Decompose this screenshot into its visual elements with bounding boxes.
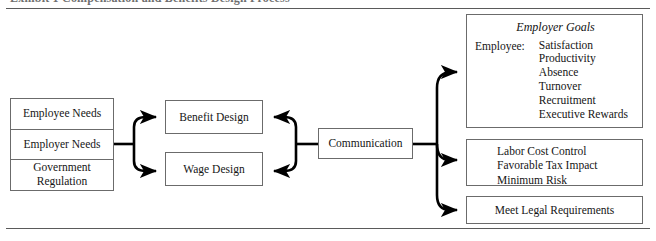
employer-goals-group-label: Employee: [475,39,539,53]
input-employer-needs: Employer Needs [11,130,113,161]
cost-goal-item: Labor Cost Control [497,144,586,158]
input-government-regulation: Government Regulation [11,160,113,190]
figure-top-rule [6,8,650,9]
connector-communication-to-outcomes [413,72,457,210]
figure-bottom-rule [6,228,650,229]
figure-container: Exhibit 1 Compensation and Benefits Desi… [0,0,656,241]
box-communication: Communication [318,128,413,159]
box-benefit-design: Benefit Design [165,100,263,134]
inputs-stack: Employee Needs Employer Needs Government… [10,98,114,191]
goal-item: Productivity [539,52,596,66]
goal-item: Absence [539,66,579,80]
figure-caption-ghost: Exhibit 1 Compensation and Benefits Desi… [10,0,290,6]
box-legal-requirements: Meet Legal Requirements [466,196,643,224]
box-employer-goals: Employer Goals Employee: Satisfaction Pr… [466,14,643,128]
employer-goals-list: Satisfaction Productivity Absence Turnov… [539,39,628,122]
box-wage-design: Wage Design [165,152,263,186]
goal-item: Turnover [539,80,581,94]
goal-item: Satisfaction [539,39,593,53]
connector-inputs-to-design [114,117,156,171]
employer-goals-title: Employer Goals [475,20,636,35]
cost-goal-item: Minimum Risk [497,173,567,187]
employer-goals-row: Employee: Satisfaction Productivity Abse… [475,39,636,122]
connector-communication-to-design [274,117,318,171]
box-cost-goals: Labor Cost Control Favorable Tax Impact … [466,139,643,186]
legal-requirements-label: Meet Legal Requirements [467,203,642,217]
goal-item: Recruitment [539,94,596,108]
goal-item: Executive Rewards [539,108,628,122]
cost-goal-item: Favorable Tax Impact [497,158,598,172]
input-employee-needs: Employee Needs [11,99,113,130]
employer-goals-inner: Employer Goals Employee: Satisfaction Pr… [467,15,642,127]
cost-goals-list: Labor Cost Control Favorable Tax Impact … [467,140,642,185]
